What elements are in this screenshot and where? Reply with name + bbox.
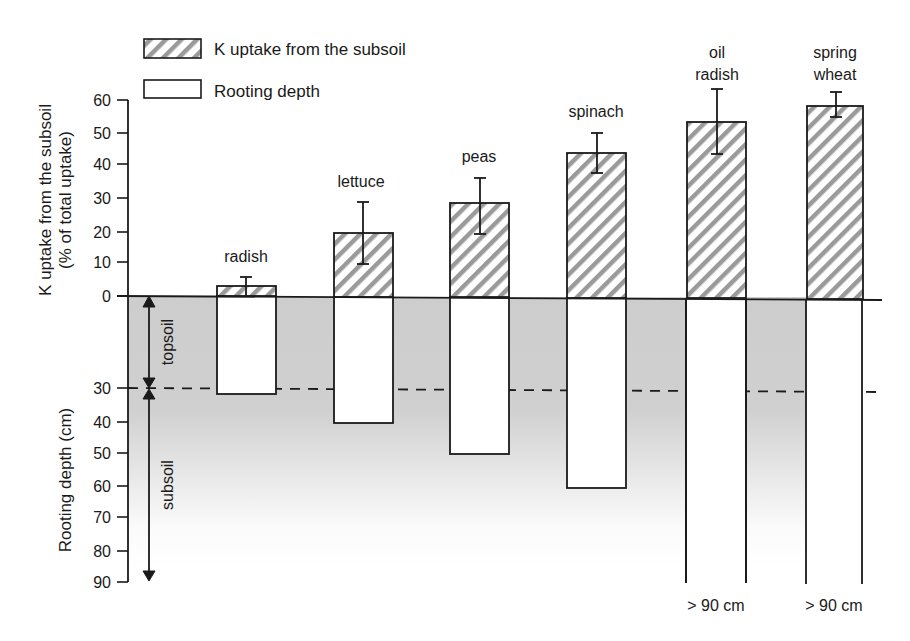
depth-bar-spring-wheat xyxy=(806,299,863,584)
error-bars xyxy=(240,89,842,296)
label-spring-wheat-depth: > 90 cm xyxy=(805,597,862,614)
k-bar-spring-wheat xyxy=(807,106,863,299)
tick-50: 50 xyxy=(93,125,111,142)
upper-axis-title: K uptake from the subsoil (% of total up… xyxy=(36,104,75,296)
tick-depth-90: 90 xyxy=(93,574,111,591)
tick-depth-50: 50 xyxy=(93,445,111,462)
depth-bar-spinach xyxy=(567,298,626,488)
k-bar-spinach xyxy=(567,153,626,298)
label-spinach: spinach xyxy=(568,103,623,120)
tick-depth-60: 60 xyxy=(93,478,111,495)
lower-axis-label: Rooting depth (cm) xyxy=(56,408,75,553)
tick-30: 30 xyxy=(93,190,111,207)
category-labels: radish lettuce peas spinach oilradish sp… xyxy=(224,44,857,265)
tick-40: 40 xyxy=(93,156,111,173)
depth-bar-peas xyxy=(450,297,509,454)
depth-bar-radish xyxy=(217,296,276,394)
legend: K uptake from the subsoil Rooting depth xyxy=(144,39,406,101)
lower-axis-tick-labels: 30 40 50 60 70 80 90 xyxy=(93,380,111,591)
label-peas: peas xyxy=(462,148,497,165)
legend-swatch-hatched xyxy=(144,39,201,58)
chart: K uptake from the subsoil Rooting depth … xyxy=(0,0,910,641)
k-uptake-bars xyxy=(217,106,863,299)
upper-axis-label-line2: (% of total uptake) xyxy=(56,131,75,269)
lower-axis-ticks xyxy=(117,388,128,582)
depth-bar-lettuce xyxy=(334,297,393,423)
upper-axis-label-line1: K uptake from the subsoil xyxy=(36,104,55,296)
label-lettuce: lettuce xyxy=(337,173,384,190)
tick-10: 10 xyxy=(93,254,111,271)
tick-20: 20 xyxy=(93,224,111,241)
arrow-down-icon xyxy=(143,571,155,581)
tick-60: 60 xyxy=(93,92,111,109)
topsoil-label: topsoil xyxy=(159,319,176,365)
depth-value-labels: > 90 cm > 90 cm xyxy=(687,597,862,614)
label-oil-radish-depth: > 90 cm xyxy=(687,597,744,614)
upper-axis-ticks xyxy=(117,100,128,296)
tick-depth-40: 40 xyxy=(93,414,111,431)
legend-label-rooting-depth: Rooting depth xyxy=(214,82,320,101)
legend-label-k-uptake: K uptake from the subsoil xyxy=(214,40,406,59)
upper-axis-tick-labels: 60 50 40 30 20 10 0 xyxy=(93,92,111,305)
tick-depth-80: 80 xyxy=(93,543,111,560)
tick-depth-30: 30 xyxy=(93,380,111,397)
tick-depth-70: 70 xyxy=(93,509,111,526)
subsoil-label: subsoil xyxy=(159,460,176,510)
label-oil-radish: oilradish xyxy=(695,44,739,83)
label-radish: radish xyxy=(224,248,268,265)
legend-swatch-white xyxy=(144,80,201,98)
tick-0: 0 xyxy=(102,288,111,305)
label-spring-wheat: springwheat xyxy=(813,44,857,83)
